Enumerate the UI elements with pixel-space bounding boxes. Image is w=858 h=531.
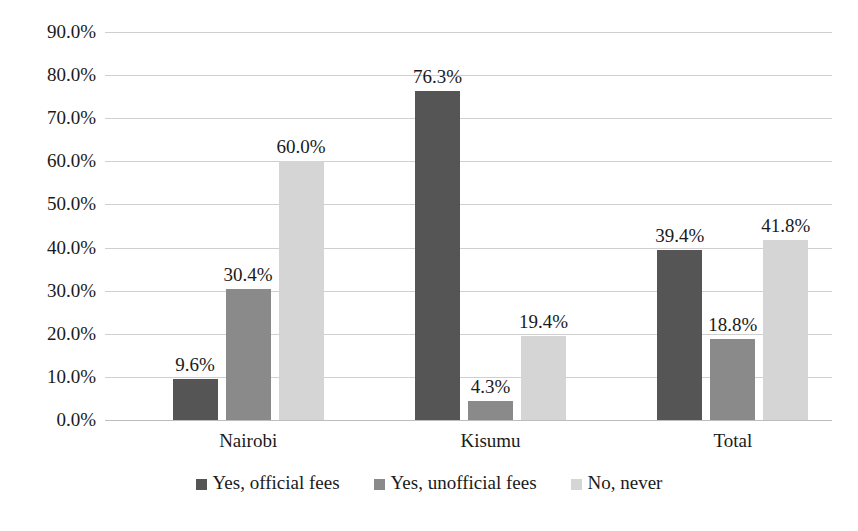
legend-item[interactable]: No, never — [571, 472, 663, 494]
legend-swatch-icon — [374, 479, 385, 490]
legend-swatch-icon — [571, 479, 582, 490]
y-axis: 0.0%10.0%20.0%30.0%40.0%50.0%60.0%70.0%8… — [0, 0, 96, 531]
y-axis-tick-label: 70.0% — [10, 108, 96, 127]
gridline — [105, 118, 832, 119]
bar — [226, 289, 271, 420]
legend-item-label: No, never — [588, 472, 663, 494]
y-axis-tick-label: 30.0% — [10, 281, 96, 300]
bar-data-label: 41.8% — [738, 216, 833, 235]
bar-data-label: 39.4% — [632, 226, 727, 245]
x-axis: NairobiKisumuTotal — [105, 430, 832, 460]
x-axis-category-label: Nairobi — [178, 430, 318, 452]
bar — [279, 161, 324, 420]
legend-swatch-icon — [196, 479, 207, 490]
plot-area: 9.6%30.4%60.0%76.3%4.3%19.4%39.4%18.8%41… — [105, 32, 832, 420]
bar — [173, 379, 218, 420]
bar-chart: 0.0%10.0%20.0%30.0%40.0%50.0%60.0%70.0%8… — [0, 0, 858, 531]
y-axis-tick-label: 0.0% — [10, 410, 96, 429]
gridline — [105, 291, 832, 292]
y-axis-tick-label: 20.0% — [10, 324, 96, 343]
gridline — [105, 420, 832, 421]
chart-legend: Yes, official feesYes, unofficial feesNo… — [0, 472, 858, 494]
gridline — [105, 161, 832, 162]
legend-item[interactable]: Yes, unofficial fees — [374, 472, 537, 494]
bar-data-label: 19.4% — [496, 312, 591, 331]
bar-data-label: 60.0% — [254, 137, 349, 156]
gridline — [105, 32, 832, 33]
y-axis-tick-label: 50.0% — [10, 194, 96, 213]
bar-data-label: 76.3% — [390, 67, 485, 86]
x-axis-category-label: Kisumu — [421, 430, 561, 452]
y-axis-tick-label: 60.0% — [10, 151, 96, 170]
legend-item-label: Yes, official fees — [213, 472, 340, 494]
gridline — [105, 204, 832, 205]
bar — [763, 240, 808, 420]
y-axis-tick-label: 90.0% — [10, 22, 96, 41]
bar — [521, 336, 566, 420]
y-axis-tick-label: 40.0% — [10, 238, 96, 257]
bar — [468, 401, 513, 420]
bar — [415, 91, 460, 420]
legend-item[interactable]: Yes, official fees — [196, 472, 340, 494]
bar — [710, 339, 755, 420]
x-axis-category-label: Total — [663, 430, 803, 452]
y-axis-tick-label: 80.0% — [10, 65, 96, 84]
y-axis-tick-label: 10.0% — [10, 367, 96, 386]
legend-item-label: Yes, unofficial fees — [391, 472, 537, 494]
gridline — [105, 248, 832, 249]
bar — [657, 250, 702, 420]
